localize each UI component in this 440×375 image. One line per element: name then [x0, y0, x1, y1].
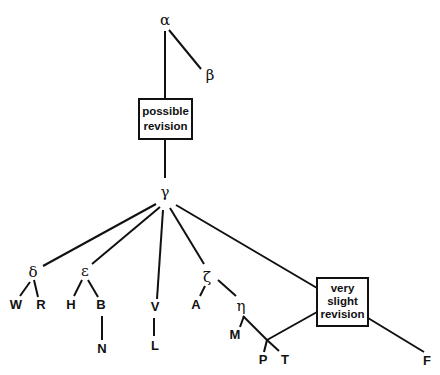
node-L: L — [151, 338, 159, 353]
node-N: N — [97, 341, 106, 356]
edge-delta-R — [34, 280, 38, 297]
node-F: F — [423, 353, 431, 368]
edge-alpha-beta — [169, 30, 201, 69]
node-V: V — [151, 299, 160, 314]
edge-zeta-A — [200, 286, 205, 296]
edge-very-slight-revision-F — [368, 318, 424, 352]
possible-revision-line-1: possible — [142, 105, 189, 117]
edge-epsilon-H — [74, 280, 82, 296]
stemma-diagram: possible revision very slight revision α… — [0, 0, 440, 375]
edge-gamma-very-slight-revision — [176, 205, 317, 288]
node-H: H — [66, 297, 75, 312]
node-M: M — [230, 327, 241, 342]
possible-revision-line-2: revision — [143, 120, 187, 132]
edge-junction-T — [267, 340, 279, 351]
edge-epsilon-B — [88, 280, 98, 297]
node-alpha: α — [160, 11, 170, 29]
edge-delta-W — [20, 282, 30, 296]
node-P: P — [259, 352, 268, 367]
very-slight-revision-box: very slight revision — [317, 278, 368, 326]
very-slight-revision-line-3: revision — [320, 308, 364, 320]
edge-zeta-eta — [218, 280, 236, 296]
node-R: R — [36, 297, 46, 312]
edge-junction-P — [264, 340, 267, 352]
edge-gamma-zeta — [170, 208, 204, 264]
node-beta: β — [206, 66, 215, 84]
edge-gamma-epsilon — [92, 207, 160, 264]
edge-junction-very-slight-revision — [267, 312, 317, 340]
node-A: A — [191, 297, 201, 312]
possible-revision-box: possible revision — [139, 99, 192, 139]
node-gamma: γ — [161, 183, 170, 201]
node-epsilon: ε — [81, 262, 89, 280]
very-slight-revision-line-2: slight — [327, 295, 358, 307]
node-W: W — [10, 297, 23, 312]
edge-gamma-V — [157, 210, 163, 299]
node-zeta: ζ — [203, 268, 211, 286]
node-B: B — [96, 297, 105, 312]
node-T: T — [281, 352, 289, 367]
edge-eta-junction — [243, 316, 267, 340]
node-delta: δ — [28, 263, 37, 281]
node-eta: η — [237, 297, 246, 315]
very-slight-revision-line-1: very — [331, 282, 355, 294]
